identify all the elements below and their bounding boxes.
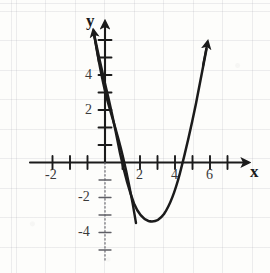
x-tick-label--2: -2 xyxy=(45,168,57,182)
y-axis-label: y xyxy=(86,12,95,29)
graph-figure: y x -2 2 4 6 4 2 -2 -4 xyxy=(0,0,270,273)
x-tick-label-6: 6 xyxy=(206,168,213,182)
y-tick-label--4: -4 xyxy=(78,225,90,239)
x-axis-label: x xyxy=(250,163,259,180)
plot-canvas xyxy=(0,0,270,273)
y-tick-label--2: -2 xyxy=(78,190,90,204)
x-tick-label-4: 4 xyxy=(171,168,178,182)
parabola-right-arrow xyxy=(203,42,208,66)
x-tick-label-2: 2 xyxy=(136,168,143,182)
y-tick-label-2: 2 xyxy=(85,103,92,117)
y-tick-label-4: 4 xyxy=(85,68,92,82)
